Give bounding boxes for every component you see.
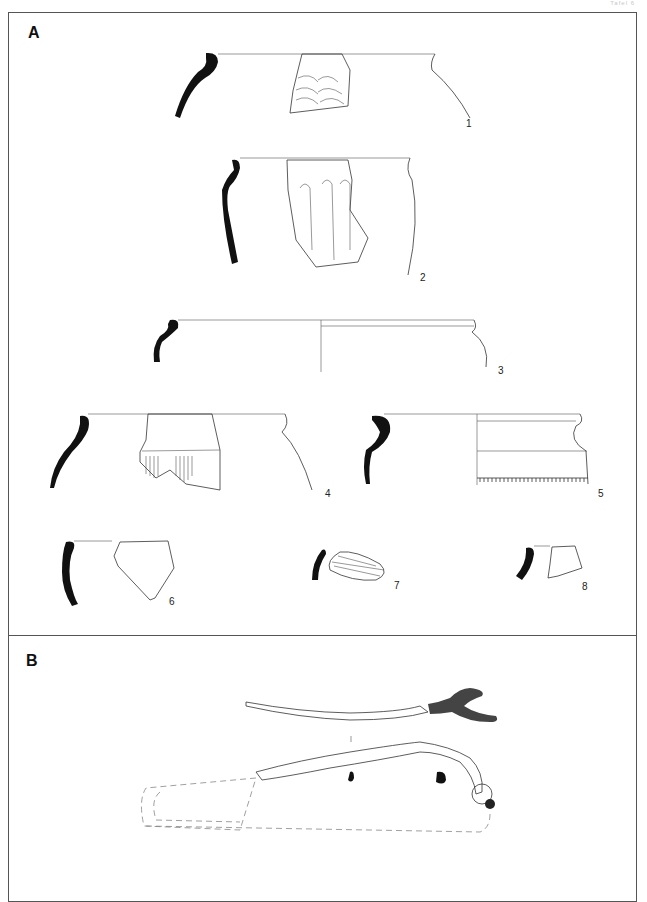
figure-6-profile [62,542,78,606]
figure-5-comb-band [477,478,588,482]
fibula-section-2 [436,772,446,784]
figure-number-8: 8 [582,581,588,592]
fibula-section-1 [348,772,354,782]
figure-number-6: 6 [169,596,175,607]
figure-5-profile [364,416,390,484]
fibula-side-view [141,736,495,832]
fibula-reconstruction [141,778,490,832]
figure-1-profile [175,53,218,118]
figure-2-outline [408,158,415,275]
figure-7-grooves [332,556,384,576]
figure-2-drawing [222,158,415,275]
fibula-top-view [246,688,497,722]
fibula-side-bow [256,742,482,794]
figure-4-outline [282,414,312,490]
figure-2-sherd [287,160,368,267]
figure-1-drawing [175,53,470,118]
figure-2-fluting [300,180,350,260]
fibula-spring-hole [485,799,495,809]
figure-5-outline [574,414,588,484]
fibula-top-bow [246,702,428,720]
figure-number-4: 4 [325,488,331,499]
figure-5-drawing [364,414,588,485]
figure-7-drawing [312,550,384,581]
figure-4-hatched-band [142,450,220,482]
figure-7-profile [312,550,326,581]
figure-8-drawing [516,546,582,580]
figure-1-sherd [290,54,350,113]
figure-6-drawing [62,541,174,606]
figure-number-3: 3 [498,365,504,376]
figure-8-sherd [548,546,582,578]
figure-3-outline [472,320,487,367]
figure-2-profile [222,160,240,264]
figure-4-profile [50,416,89,488]
fibula-top-head [428,688,497,722]
figure-number-2: 2 [420,272,426,283]
figure-number-7: 7 [394,580,400,591]
figure-3-drawing [154,320,487,372]
figure-8-profile [516,548,534,580]
figure-6-sherd [114,541,174,600]
figure-3-profile [154,320,179,362]
figure-4-drawing [50,414,312,490]
figure-number-1: 1 [466,118,472,129]
figure-number-5: 5 [598,488,604,499]
figure-1-outline [431,54,470,118]
figure-1-decoration [296,76,344,104]
